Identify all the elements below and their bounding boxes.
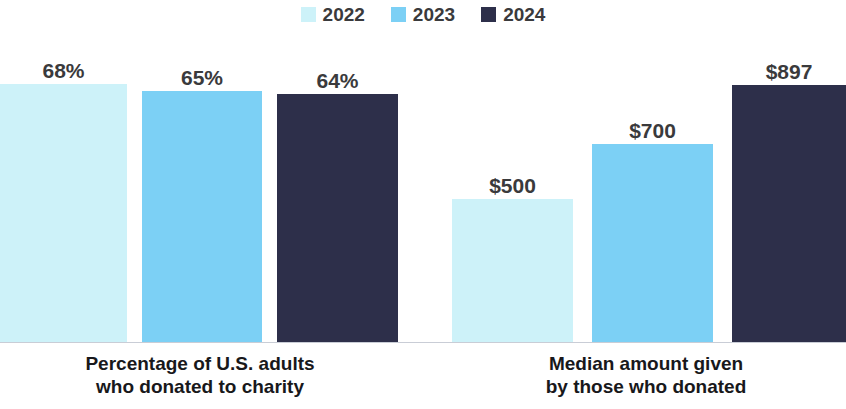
bar-value-label: 64% <box>316 70 358 91</box>
bar-value-label: 65% <box>181 67 223 88</box>
group-caption-line-2: who donated to charity <box>0 375 400 398</box>
bar-2024-percentage[interactable]: 64% <box>277 94 398 342</box>
group-caption-median-amount: Median amount given by those who donated <box>446 352 846 398</box>
group-caption-line-1: Percentage of U.S. adults <box>0 352 400 375</box>
bar-2023-percentage[interactable]: 65% <box>142 91 262 342</box>
group-caption-line-1: Median amount given <box>446 352 846 375</box>
bar-2022-percentage[interactable]: 68% <box>0 84 127 342</box>
plot-area: 68% 65% 64% $500 $700 $897 Percentage of… <box>0 0 846 409</box>
bar-value-label: $500 <box>489 175 536 196</box>
grouped-bar-chart: 2022 2023 2024 68% 65% 64% $500 $700 <box>0 0 846 409</box>
group-caption-percentage: Percentage of U.S. adults who donated to… <box>0 352 400 398</box>
bar-2024-median-amount[interactable]: $897 <box>732 85 846 342</box>
axis-baseline <box>0 342 846 343</box>
bar-2023-median-amount[interactable]: $700 <box>592 144 713 342</box>
bar-value-label: $700 <box>629 120 676 141</box>
bar-2022-median-amount[interactable]: $500 <box>452 199 573 342</box>
bar-value-label: 68% <box>42 60 84 81</box>
group-caption-line-2: by those who donated <box>446 375 846 398</box>
bar-value-label: $897 <box>766 61 813 82</box>
